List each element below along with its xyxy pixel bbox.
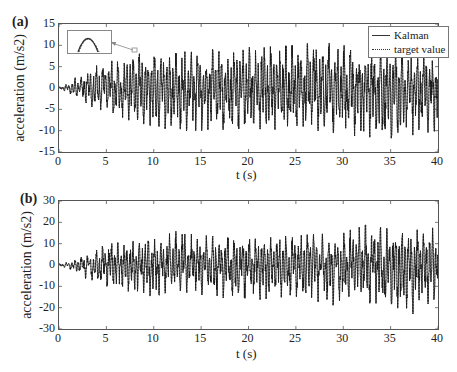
signal-trace-b <box>59 201 438 329</box>
x-tick-label: 0 <box>46 332 70 344</box>
x-tick-label: 15 <box>188 332 212 344</box>
x-tick-label: 10 <box>141 332 165 344</box>
y-tick-label: -20 <box>25 301 55 313</box>
y-tick-label: 10 <box>25 237 55 249</box>
x-tick-label: 5 <box>93 332 117 344</box>
x-tick-label: 20 <box>236 332 260 344</box>
panel-b: (b) acceleration (m/s2) -30-20-100102030… <box>0 0 457 372</box>
y-tick-label: 0 <box>25 258 55 270</box>
x-tick-label: 40 <box>425 332 449 344</box>
y-tick-label: 20 <box>25 215 55 227</box>
y-tick-label: 30 <box>25 194 55 206</box>
x-axis-label-b: t (s) <box>236 346 257 362</box>
x-tick-label: 35 <box>378 332 402 344</box>
x-tick-label: 30 <box>330 332 354 344</box>
x-tick-label: 25 <box>283 332 307 344</box>
y-tick-label: -10 <box>25 279 55 291</box>
plot-area-b <box>58 200 439 330</box>
